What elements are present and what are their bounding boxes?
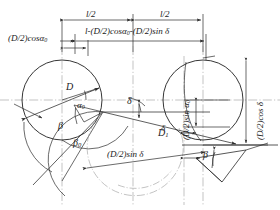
dim-label-l2-right: l/2: [160, 10, 170, 19]
dim-label-right-inner: (D/2)sin α0: [182, 100, 192, 140]
label-beta0: β0: [73, 138, 81, 149]
lower-right-dash-arc: [118, 170, 172, 188]
bottom-left-arc-arrow: [14, 104, 42, 118]
figure-canvas: l/2 l/2 l-(D/2)cosα0-(D/2)sin δ (D/2)cos…: [0, 0, 280, 210]
link-D1: [103, 112, 236, 144]
alpha0-sub: 0: [82, 104, 85, 110]
effective-length-head: l-(D/2)cosα: [85, 26, 127, 36]
dimension-row-effective: [75, 34, 206, 60]
effective-length-tail: -(D/2)sin δ: [130, 26, 169, 36]
left-offset-sub: 0: [44, 37, 47, 43]
dimension-bottom: [87, 152, 205, 168]
right-inner-sub: 0: [185, 100, 191, 103]
label-alpha0: α0: [77, 101, 85, 111]
bottom-left-arc: [24, 122, 52, 172]
dim-label-bottom-offset: (D/2)sin δ: [107, 150, 143, 159]
angle-arc-beta0: [62, 126, 128, 149]
beta0-sub: 0: [78, 141, 81, 148]
D1-sub: 1: [165, 131, 168, 138]
diameter-arrow-D: [26, 88, 99, 118]
right-crest-tick: [203, 56, 215, 58]
centerlines: [0, 46, 280, 205]
label-delta-right: δ: [161, 124, 165, 133]
link-ray-lower-left-2: [62, 112, 103, 181]
dim-label-l2-left: l/2: [86, 10, 96, 19]
label-beta-right: β: [203, 150, 208, 160]
label-beta: β: [58, 121, 63, 131]
right-inner-head: (D/2)sin α: [181, 103, 191, 140]
label-diameter-D: D: [66, 82, 73, 92]
lower-construction-arc-solid: [48, 112, 103, 196]
label-delta: δ: [127, 96, 132, 106]
dim-label-right-outer: (D/2)cos δ: [256, 102, 265, 140]
left-offset-head: (D/2)cosα: [8, 33, 44, 43]
dim-label-left-offset: (D/2)cosα0: [8, 34, 47, 44]
dim-label-effective-length: l-(D/2)cosα0-(D/2)sin δ: [85, 27, 169, 37]
